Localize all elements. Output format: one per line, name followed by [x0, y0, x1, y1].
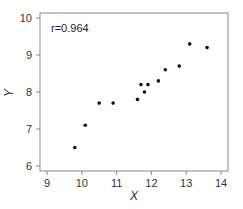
y-axis-label: Y	[2, 88, 16, 97]
x-tick-label: 11	[111, 177, 122, 189]
data-point	[146, 83, 150, 87]
x-axis-label: X	[129, 189, 139, 203]
data-point	[136, 98, 140, 102]
plot-frame	[40, 13, 228, 171]
x-axis: 91011121314	[44, 171, 227, 189]
data-point	[111, 101, 115, 105]
data-point	[139, 83, 143, 87]
y-tick-label: 10	[20, 12, 32, 24]
x-tick-label: 10	[76, 177, 88, 189]
y-tick-label: 6	[26, 160, 32, 172]
y-tick-label: 8	[26, 86, 32, 98]
x-tick-label: 14	[215, 177, 227, 189]
data-point	[83, 124, 87, 128]
data-point	[205, 46, 209, 50]
scatter-chart: 678910 91011121314 r=0.964 X Y	[0, 0, 243, 209]
x-tick-label: 13	[180, 177, 192, 189]
data-point	[73, 146, 77, 150]
data-point	[97, 101, 101, 105]
data-point	[164, 68, 168, 72]
data-point	[177, 64, 181, 68]
y-tick-label: 9	[26, 49, 32, 61]
y-axis: 678910	[20, 12, 40, 172]
x-tick-label: 12	[145, 177, 157, 189]
data-points	[73, 42, 209, 149]
correlation-annotation: r=0.964	[51, 22, 89, 34]
x-tick-label: 9	[44, 177, 50, 189]
data-point	[143, 90, 147, 94]
data-point	[188, 42, 192, 46]
data-point	[157, 79, 161, 83]
y-tick-label: 7	[26, 123, 32, 135]
